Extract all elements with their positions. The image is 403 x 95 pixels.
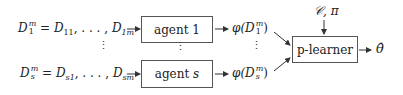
output-phi-1: φ(Dm1)	[232, 20, 268, 36]
close-paren: )	[263, 66, 268, 80]
base: D	[245, 21, 255, 35]
phi: φ(	[232, 21, 245, 35]
output-phi-s: φ(Dms)	[232, 65, 268, 81]
lhs-base: D	[20, 66, 30, 80]
rhs-last: D	[112, 21, 122, 35]
vdots-glyph: ⋮	[251, 39, 262, 52]
base: D	[245, 66, 255, 80]
agent-1-box: agent 1	[141, 16, 213, 43]
close-paren: )	[263, 21, 268, 35]
vdots-outputs: ⋮	[251, 44, 262, 48]
phi: φ(	[232, 66, 245, 80]
theta-hat-output: θ̂	[376, 41, 384, 56]
arrow-output1-learner	[274, 32, 290, 45]
vdots-glyph: ⋮	[98, 39, 109, 52]
p-learner-box: p-learner	[292, 36, 358, 63]
input-dataset-s: Dms = Ds1, . . . , Dsm	[20, 65, 134, 82]
rhs-last-sub: 1m	[122, 28, 135, 37]
agent-index: s	[193, 67, 199, 81]
vdots-inputs: ⋮	[98, 44, 109, 48]
agent-s-box: agent s	[141, 60, 213, 88]
agent-index: 1	[192, 23, 200, 37]
arrow-outputs-learner	[274, 58, 290, 71]
ellipsis: , . . . ,	[75, 66, 113, 80]
vdots-agents: ⋮	[175, 45, 186, 49]
equals: =	[36, 21, 54, 35]
agent-label: agent	[155, 67, 190, 81]
ellipsis: , . . . ,	[74, 21, 112, 35]
rhs-first: D	[54, 21, 64, 35]
rhs-first-sub: 11	[64, 28, 74, 37]
rhs-last-sub: sm	[123, 73, 135, 82]
rhs-first: D	[56, 66, 66, 80]
learner-label: p-learner	[297, 43, 353, 57]
agent-label: agent	[154, 23, 189, 37]
rhs-first-sub: s1	[66, 73, 75, 82]
equals: =	[38, 66, 56, 80]
rhs-last: D	[113, 66, 123, 80]
vdots-glyph: ⋮	[175, 40, 186, 53]
input-dataset-1: Dm1 = D11, . . . , D1m	[18, 20, 134, 37]
lhs-base: D	[18, 21, 28, 35]
learner-params: 𝒞, π	[314, 4, 339, 18]
